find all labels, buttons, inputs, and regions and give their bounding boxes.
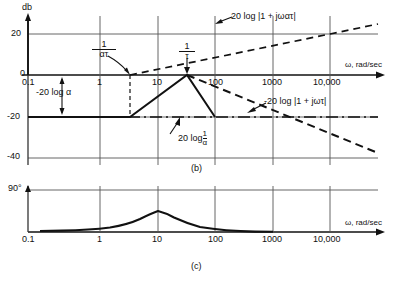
xtick-c-100: 100 — [208, 235, 223, 244]
xtick-b-1: 1 — [97, 78, 102, 87]
xtick-b-0.1: 0.1 — [22, 78, 35, 87]
annotation-breakpoint-1-over-tau: 1 τ — [179, 42, 195, 62]
ytick-minus40: -40 — [7, 152, 20, 161]
xtick-c-0.1: 0.1 — [22, 235, 35, 244]
minus20loga-arrow-down — [60, 108, 65, 115]
x-axis-label-b: ω, rad/sec — [345, 61, 382, 69]
xtick-b-1000: 1000 — [262, 78, 282, 87]
x-axis-arrowhead-b — [376, 72, 385, 79]
dashdot-denominator: α — [203, 138, 208, 147]
ytick-minus20: -20 — [7, 112, 20, 121]
annotation-upper-asymptote: 20 log |1 + jωατ| — [231, 12, 296, 21]
ytick-20: 20 — [11, 29, 21, 38]
x-axis-arrowhead-c — [376, 229, 385, 236]
panel-caption-b: (b) — [191, 164, 202, 173]
dashdot-level-text: 20 log — [178, 133, 203, 143]
dashdot-level-fraction: 1α — [203, 130, 208, 147]
phase-curve — [40, 211, 273, 232]
y-axis-arrowhead-b — [25, 13, 31, 21]
break2-numerator: 1 — [179, 42, 195, 51]
xtick-b-100: 100 — [208, 78, 223, 87]
ytick-c-90deg: 90° — [8, 184, 22, 193]
panel-c-phase — [25, 185, 385, 236]
panel-caption-c: (c) — [191, 262, 202, 271]
break1-numerator: 1 — [92, 40, 116, 49]
break1-denominator: ατ — [92, 49, 116, 59]
break2-denominator: τ — [179, 51, 195, 61]
xtick-b-10: 10 — [152, 78, 162, 87]
annotation-dashdot-level: 20 log1α — [178, 130, 207, 147]
leader-break2-arrowhead — [184, 67, 190, 74]
xtick-c-10000: 10,000 — [313, 235, 341, 244]
xtick-b-10000: 10,000 — [313, 78, 341, 87]
annotation-lower-asymptote: -20 log |1 + jωτ| — [264, 97, 326, 106]
y-axis-arrowhead-c — [25, 185, 31, 192]
annotation-minus20-log-alpha: -20 log α — [36, 88, 71, 97]
leader-upper-arrowhead — [215, 19, 223, 24]
dashdot-numerator: 1 — [203, 130, 208, 138]
annotation-breakpoint-1-over-alpha-tau: 1 ατ — [92, 40, 116, 60]
xtick-c-1: 1 — [97, 235, 102, 244]
y-axis-label-db: db — [22, 3, 32, 12]
minus20loga-arrow-up — [60, 77, 65, 84]
leader-lower-arrowhead — [247, 107, 256, 113]
asymptote-upper-dashed — [130, 24, 378, 75]
xtick-c-1000: 1000 — [262, 235, 282, 244]
x-axis-label-c: ω, rad/sec — [345, 219, 382, 227]
xtick-c-10: 10 — [152, 235, 162, 244]
